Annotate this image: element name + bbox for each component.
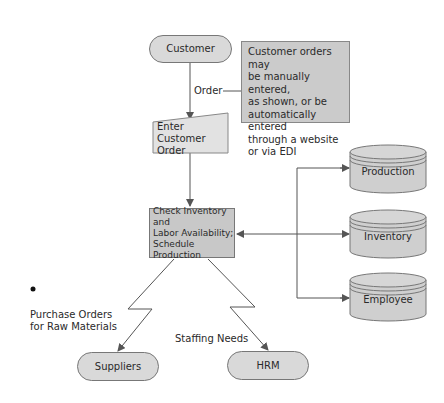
customer-label: Customer [166,43,215,55]
enter-order-label: Enter Customer Order [157,121,228,157]
purchase-orders-label: Purchase Orders for Raw Materials [30,309,117,333]
enter-order-node: Enter Customer Order [154,125,228,153]
annotation-note: Customer orders may be manually entered,… [241,41,350,123]
arrow-to-suppliers [118,259,174,351]
order-edge-label: Order [194,85,222,97]
db-employee-label: Employee [350,294,426,305]
db-production-label: Production [350,166,426,177]
suppliers-label: Suppliers [95,361,141,373]
stray-dot [31,287,36,292]
hrm-label: HRM [256,360,279,372]
customer-node: Customer [149,35,232,63]
check-inventory-label: Check Inventory and Labor Availability; … [153,206,234,261]
db-inventory-label: Inventory [350,231,426,242]
db-bracket [297,168,349,298]
suppliers-node: Suppliers [77,352,159,381]
staffing-needs-label: Staffing Needs [175,333,248,345]
check-inventory-node: Check Inventory and Labor Availability; … [149,208,235,258]
hrm-node: HRM [227,351,309,380]
